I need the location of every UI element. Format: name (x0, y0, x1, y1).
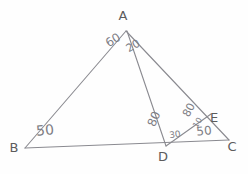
angle-label-edc: 30 (169, 130, 182, 141)
geometry-diagram: A B C D E 60 20 50 80 30 80 10 50 (0, 0, 248, 174)
angle-label-abc: 50 (36, 122, 55, 138)
vertex-label-e: E (210, 111, 218, 124)
vertex-label-a: A (119, 9, 128, 22)
figure-svg (0, 0, 248, 174)
side-bc (25, 140, 229, 148)
vertex-label-d: D (158, 150, 168, 163)
angle-label-acb: 50 (196, 124, 212, 138)
vertex-label-c: C (227, 140, 236, 153)
vertex-label-b: B (10, 141, 19, 154)
